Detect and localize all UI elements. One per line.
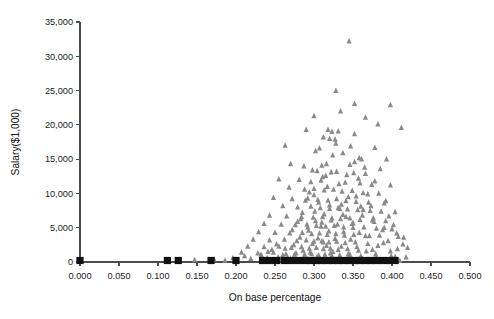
data-point [308, 179, 313, 185]
x-tick-label: 0.000 [69, 271, 92, 281]
data-point [290, 227, 295, 233]
data-point [251, 236, 256, 242]
data-point [330, 152, 335, 158]
data-point [239, 249, 244, 255]
x-tick-labels: 0.0000.0500.1000.1500.2000.2500.3000.350… [69, 271, 482, 281]
data-point [318, 205, 323, 211]
x-tick-label: 0.150 [186, 271, 209, 281]
data-point [175, 257, 182, 264]
data-point [276, 176, 281, 182]
data-point [192, 257, 197, 263]
data-point [351, 170, 356, 176]
data-point [363, 170, 368, 176]
data-point [323, 173, 328, 179]
x-axis-title: On base percentage [229, 292, 322, 303]
data-point [343, 179, 348, 185]
data-point [378, 208, 383, 214]
data-point [286, 184, 291, 190]
data-point [371, 215, 376, 221]
data-point [322, 211, 327, 217]
data-point [375, 121, 380, 127]
x-tick-label: 0.250 [264, 271, 287, 281]
axes [80, 22, 470, 262]
data-point [290, 196, 295, 202]
data-point [399, 125, 404, 131]
data-point [372, 144, 377, 150]
data-point [341, 229, 346, 235]
data-points [76, 38, 410, 264]
data-point [354, 199, 359, 205]
data-point [362, 164, 367, 170]
data-point [317, 145, 322, 151]
data-point [325, 127, 330, 133]
data-point [327, 202, 332, 208]
x-tick-label: 0.400 [381, 271, 404, 281]
data-point [274, 241, 279, 247]
data-point [368, 207, 373, 213]
data-point [272, 229, 277, 235]
data-point [379, 257, 386, 264]
y-tick-label: 25,000 [45, 86, 73, 96]
data-point [370, 247, 375, 253]
data-point [345, 206, 350, 212]
data-point [376, 190, 381, 196]
data-point [348, 143, 353, 149]
data-point [340, 212, 345, 218]
x-tick-label: 0.050 [108, 271, 131, 281]
data-point [401, 234, 406, 240]
data-point [295, 257, 302, 264]
data-point [288, 161, 293, 167]
data-point [384, 156, 389, 162]
data-point [333, 231, 338, 237]
data-point [283, 142, 288, 148]
data-point [282, 236, 287, 242]
data-point [248, 255, 253, 261]
data-point [394, 230, 399, 236]
data-point [403, 254, 408, 260]
data-point [348, 236, 353, 242]
data-point [302, 186, 307, 192]
data-point [319, 219, 324, 225]
data-point [164, 257, 171, 264]
data-point [326, 228, 331, 234]
x-tick-label: 0.450 [420, 271, 443, 281]
data-point [336, 128, 341, 134]
data-point [307, 189, 312, 195]
data-point [336, 181, 341, 187]
data-point [304, 127, 309, 133]
data-point [300, 210, 305, 216]
data-point [375, 242, 380, 248]
data-point [353, 239, 358, 245]
y-tick-label: 5,000 [50, 223, 73, 233]
y-axis-title: Salary($1,000) [10, 109, 21, 176]
data-point [374, 225, 379, 231]
y-tick-label: 15,000 [45, 154, 73, 164]
data-point [363, 114, 368, 120]
data-point [357, 229, 362, 235]
data-point [259, 257, 266, 264]
data-point [325, 183, 330, 189]
y-tick-label: 0 [68, 257, 73, 267]
data-point [261, 221, 266, 227]
data-point [312, 208, 317, 214]
data-point [256, 229, 261, 235]
data-point [347, 38, 352, 44]
data-point [347, 162, 352, 168]
data-point [269, 247, 274, 253]
data-point [351, 231, 356, 237]
data-point [372, 178, 377, 184]
data-point [324, 161, 329, 167]
data-point [365, 240, 370, 246]
data-point [400, 241, 405, 247]
data-point [392, 257, 399, 264]
x-tick-label: 0.300 [303, 271, 326, 281]
data-point [388, 102, 393, 108]
data-point [343, 240, 348, 246]
x-tick-label: 0.100 [147, 271, 170, 281]
data-point [332, 236, 337, 242]
data-point [279, 221, 284, 227]
y-tick-label: 20,000 [45, 120, 73, 130]
data-point [329, 169, 334, 175]
data-point [367, 233, 372, 239]
data-point [207, 257, 214, 264]
